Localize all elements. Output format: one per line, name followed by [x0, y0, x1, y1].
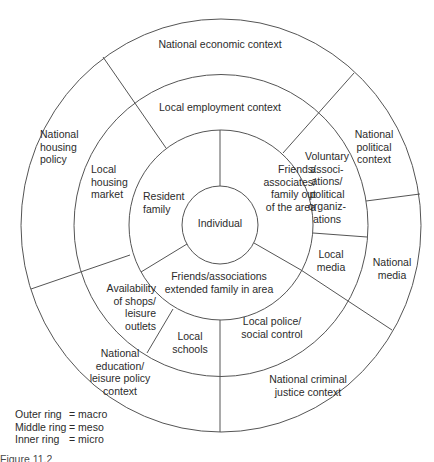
legend-key: Middle ring — [15, 421, 69, 434]
legend-key: Inner ring — [15, 433, 69, 446]
label-resident-family: Resident family — [143, 190, 199, 215]
label-national-media: National media — [370, 256, 414, 281]
legend-value: = macro — [69, 408, 107, 421]
legend-value: = meso — [69, 421, 104, 434]
label-national-criminal-justice: National criminal justice context — [260, 373, 356, 398]
label-national-political: National political context — [346, 128, 402, 166]
legend-key: Outer ring — [15, 408, 69, 421]
label-local-housing-market: Local housing market — [91, 163, 141, 201]
label-local-police: Local police/ social control — [232, 315, 312, 340]
legend-row-outer: Outer ring = macro — [15, 408, 107, 421]
figure-caption-truncated: Figure 11.2 — [0, 453, 52, 462]
concentric-rings-diagram — [0, 0, 434, 462]
center-label-individual: Individual — [189, 217, 251, 230]
divider-inner-lower-right — [254, 243, 301, 270]
ring-legend: Outer ring = macro Middle ring = meso In… — [15, 408, 107, 446]
divider-voluntary-media — [313, 233, 367, 237]
label-national-education-leisure: National education/ leisure policy conte… — [78, 347, 162, 397]
divider-inner-lower-left — [141, 244, 187, 272]
legend-row-middle: Middle ring = meso — [15, 421, 107, 434]
legend-row-inner: Inner ring = micro — [15, 433, 107, 446]
label-availability-shops: Availability of shops/ leisure outlets — [86, 282, 156, 332]
label-local-media: Local media — [313, 248, 349, 273]
divider-political-media — [366, 194, 420, 201]
label-national-economic: National economic context — [150, 38, 290, 51]
legend-value: = micro — [69, 433, 104, 446]
label-national-housing-policy: National housing policy — [40, 128, 94, 166]
label-local-employment: Local employment context — [150, 101, 290, 114]
label-friends-extended-family: Friends/associations extended family in … — [160, 270, 278, 295]
label-local-schools: Local schools — [168, 330, 212, 355]
